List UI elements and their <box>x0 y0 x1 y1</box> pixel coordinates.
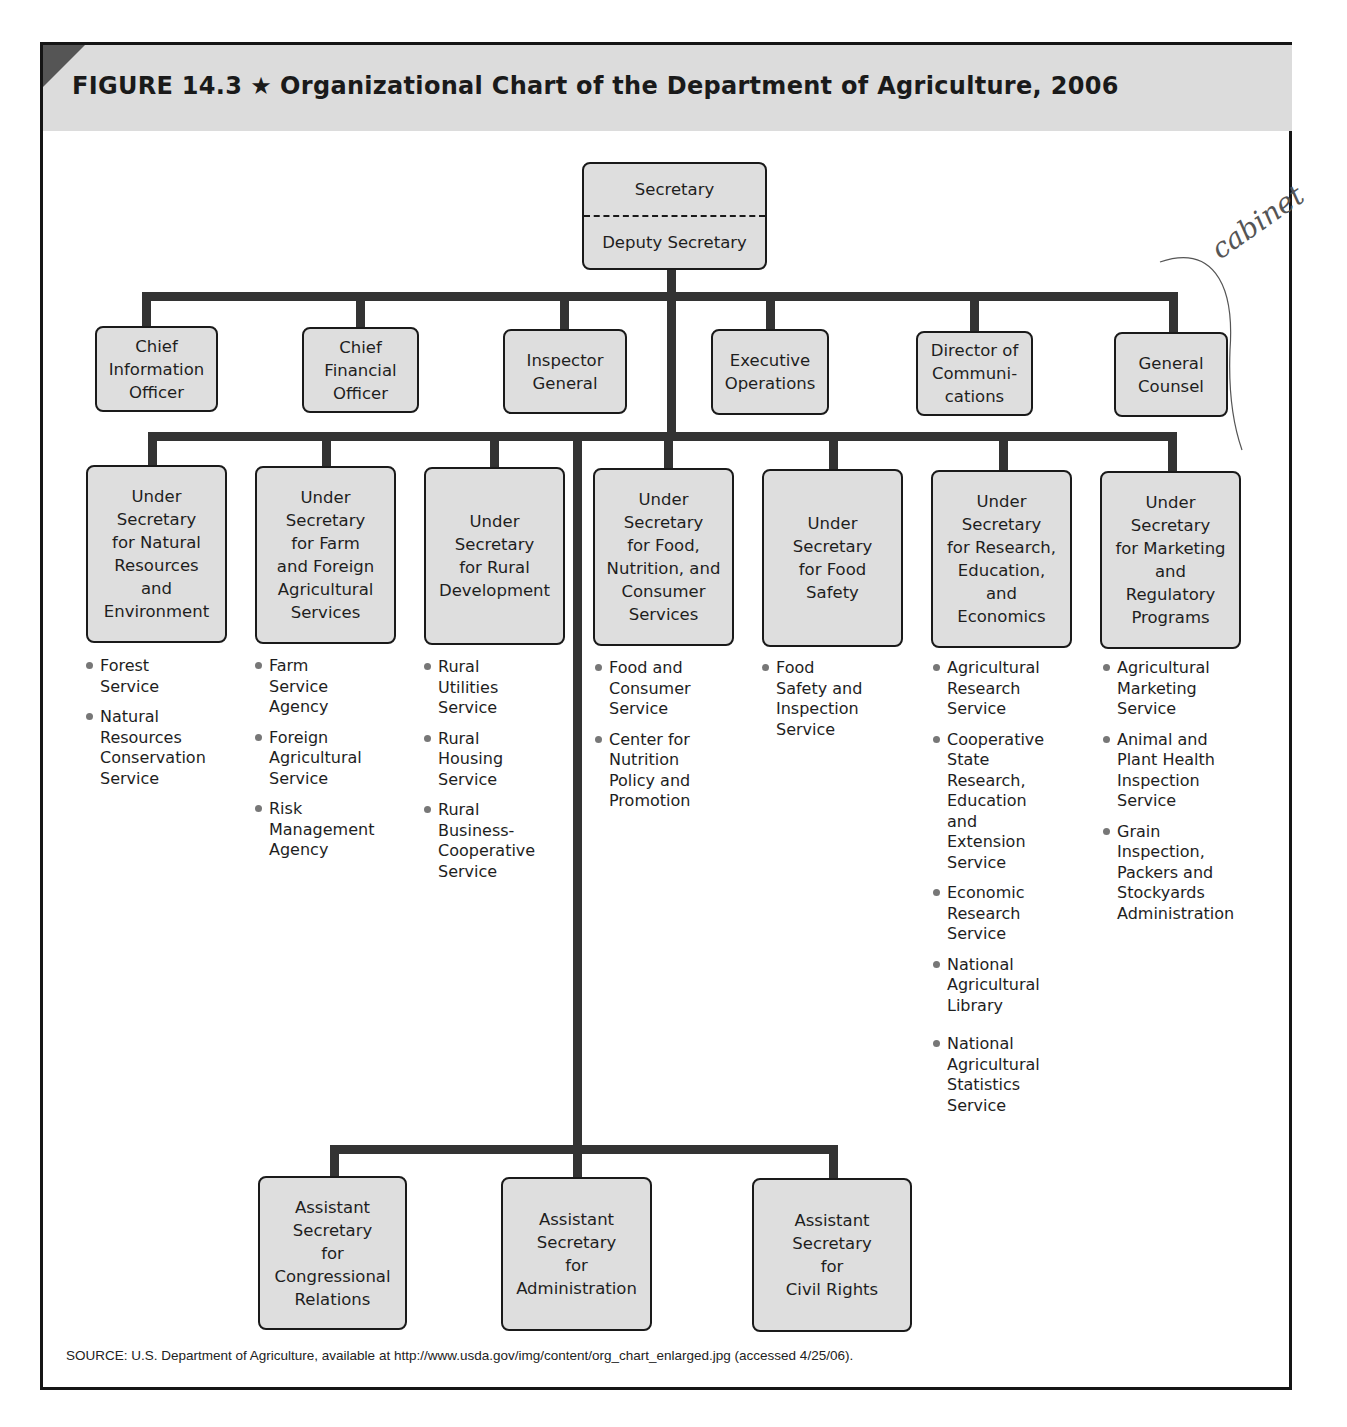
staff-office-chief-information-officer: Chief Information Officer <box>95 326 218 412</box>
under-secretary-marketing-regulatory: Under Secretary for Marketing and Regula… <box>1100 471 1241 649</box>
bullet-icon <box>933 664 940 671</box>
figure-title: FIGURE 14.3★Organizational Chart of the … <box>72 72 1119 100</box>
agency-item: Rural Business- Cooperative Service <box>424 800 574 882</box>
agency-item: National Agricultural Statistics Service <box>933 1034 1083 1116</box>
under-secretary-food-safety: Under Secretary for Food Safety <box>762 469 903 647</box>
under-secretary-natural-resources: Under Secretary for Natural Resources an… <box>86 465 227 643</box>
agency-list-research-education-economics: Agricultural Research Service Cooperativ… <box>933 658 1083 1126</box>
agency-item: Foreign Agricultural Service <box>255 728 405 790</box>
secretary-label: Secretary <box>584 164 765 215</box>
connector-staff-bar <box>142 292 1178 301</box>
bullet-icon <box>595 736 602 743</box>
agency-item: National Agricultural Library <box>933 955 1083 1017</box>
under-secretary-research-education-economics: Under Secretary for Research, Education,… <box>931 470 1072 648</box>
assistant-secretary-administration: Assistant Secretary for Administration <box>501 1177 652 1331</box>
connector-staff-drop-2 <box>356 292 365 329</box>
annotation-text: cabinet <box>1205 178 1311 266</box>
agency-item: Rural Utilities Service <box>424 657 574 719</box>
connector-staff-drop-1 <box>142 292 151 328</box>
connector-staff-drop-4 <box>766 292 775 331</box>
bullet-icon <box>933 889 940 896</box>
secretary-box: Secretary Deputy Secretary <box>582 162 767 270</box>
bullet-icon <box>595 664 602 671</box>
agency-item: Risk Management Agency <box>255 799 405 861</box>
bullet-icon <box>86 662 93 669</box>
bullet-icon <box>424 735 431 742</box>
connector-staff-drop-3 <box>560 292 569 331</box>
star-icon: ★ <box>250 72 272 100</box>
connector-assistant-drop-3 <box>829 1145 838 1180</box>
agency-item: Food and Consumer Service <box>595 658 745 720</box>
connector-under-bar <box>148 432 1177 441</box>
agency-list-food-safety: Food Safety and Inspection Service <box>762 658 912 750</box>
under-secretary-farm-foreign-agriculture: Under Secretary for Farm and Foreign Agr… <box>255 466 396 644</box>
agency-list-natural-resources: Forest Service Natural Resources Conserv… <box>86 656 236 799</box>
assistant-secretary-congressional-relations: Assistant Secretary for Congressional Re… <box>258 1176 407 1330</box>
bullet-icon <box>255 805 262 812</box>
staff-office-chief-financial-officer: Chief Financial Officer <box>302 327 419 413</box>
bullet-icon <box>424 663 431 670</box>
bullet-icon <box>1103 736 1110 743</box>
figure-label: FIGURE 14.3 <box>72 72 242 100</box>
connector-assistant-bar <box>330 1145 838 1154</box>
bullet-icon <box>86 713 93 720</box>
connector-staff-drop-5 <box>970 292 979 333</box>
bullet-icon <box>255 662 262 669</box>
bullet-icon <box>933 961 940 968</box>
under-secretary-food-nutrition-consumer: Under Secretary for Food, Nutrition, and… <box>593 468 734 646</box>
under-secretary-rural-development: Under Secretary for Rural Development <box>424 467 565 645</box>
agency-item: Forest Service <box>86 656 236 697</box>
handwritten-cabinet-annotation: cabinet <box>1150 150 1347 460</box>
agency-item: Food Safety and Inspection Service <box>762 658 912 740</box>
agency-item: Agricultural Marketing Service <box>1103 658 1263 720</box>
bullet-icon <box>762 664 769 671</box>
figure-title-text: Organizational Chart of the Department o… <box>280 72 1119 100</box>
connector-under-drop-1 <box>148 432 157 467</box>
connector-under-drop-2 <box>322 432 331 468</box>
agency-item: Center for Nutrition Policy and Promotio… <box>595 730 745 812</box>
bullet-icon <box>933 736 940 743</box>
agency-list-rural-development: Rural Utilities Service Rural Housing Se… <box>424 657 574 892</box>
staff-office-director-of-communications: Director of Communi- cations <box>916 331 1033 416</box>
agency-item: Farm Service Agency <box>255 656 405 718</box>
staff-office-executive-operations: Executive Operations <box>711 329 829 415</box>
connector-under-drop-3 <box>490 432 499 469</box>
agency-list-marketing-regulatory: Agricultural Marketing Service Animal an… <box>1103 658 1263 934</box>
connector-assistant-trunk <box>573 432 582 1180</box>
agency-item: Agricultural Research Service <box>933 658 1083 720</box>
bullet-icon <box>424 806 431 813</box>
connector-assistant-drop-1 <box>330 1145 339 1178</box>
agency-item: Animal and Plant Health Inspection Servi… <box>1103 730 1263 812</box>
bullet-icon <box>1103 828 1110 835</box>
agency-item: Natural Resources Conservation Service <box>86 707 236 789</box>
deputy-secretary-label: Deputy Secretary <box>584 217 765 268</box>
staff-office-inspector-general: Inspector General <box>503 329 627 414</box>
connector-under-drop-5 <box>829 432 838 471</box>
agency-item: Economic Research Service <box>933 883 1083 945</box>
bullet-icon <box>933 1040 940 1047</box>
source-note: SOURCE: U.S. Department of Agriculture, … <box>66 1348 853 1363</box>
agency-item: Grain Inspection, Packers and Stockyards… <box>1103 822 1263 925</box>
agency-item: Cooperative State Research, Education an… <box>933 730 1083 874</box>
agency-list-food-nutrition-consumer: Food and Consumer Service Center for Nut… <box>595 658 745 822</box>
assistant-secretary-civil-rights: Assistant Secretary for Civil Rights <box>752 1178 912 1332</box>
agency-list-farm-foreign-agriculture: Farm Service Agency Foreign Agricultural… <box>255 656 405 871</box>
bullet-icon <box>1103 664 1110 671</box>
connector-under-drop-4 <box>664 432 673 470</box>
connector-under-drop-6 <box>999 432 1008 472</box>
agency-item: Rural Housing Service <box>424 729 574 791</box>
bullet-icon <box>255 734 262 741</box>
